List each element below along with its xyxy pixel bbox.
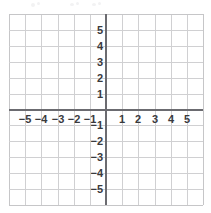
x-axis-tick-label: −4 bbox=[35, 114, 48, 125]
x-axis-tick-label: 2 bbox=[135, 114, 141, 125]
x-axis-tick-label: −3 bbox=[52, 114, 65, 125]
y-axis-tick-label: −1 bbox=[90, 120, 103, 131]
scan-speckle bbox=[37, 2, 40, 5]
y-axis-tick-label: 1 bbox=[97, 89, 103, 100]
x-axis-tick-label: −5 bbox=[19, 114, 32, 125]
y-axis-tick-label: −4 bbox=[90, 168, 103, 179]
scan-speckle bbox=[76, 2, 79, 5]
x-axis-tick-label: 4 bbox=[168, 114, 174, 125]
x-axis-tick-label: 3 bbox=[152, 114, 158, 125]
scan-speckle bbox=[92, 3, 96, 6]
x-axis-tick-label: −2 bbox=[68, 114, 81, 125]
plot-area: −5−4−3−2−11234554321−1−2−3−4−5 bbox=[9, 14, 203, 205]
x-axis-tick-label: 1 bbox=[119, 114, 125, 125]
y-axis-tick-label: 5 bbox=[97, 25, 103, 36]
y-axis-tick-label: −3 bbox=[90, 152, 103, 163]
x-axis-tick-label: 5 bbox=[184, 114, 190, 125]
coordinate-plane-figure: −5−4−3−2−11234554321−1−2−3−4−5 bbox=[0, 0, 211, 213]
y-axis-tick-label: 3 bbox=[97, 57, 103, 68]
grid-line-vertical bbox=[203, 14, 204, 205]
grid-line-horizontal bbox=[9, 205, 203, 206]
x-axis bbox=[9, 109, 203, 111]
scan-speckle bbox=[31, 3, 35, 7]
y-axis-tick-label: 4 bbox=[97, 41, 103, 52]
y-axis-tick-label: −2 bbox=[90, 136, 103, 147]
scan-speckle bbox=[98, 2, 101, 5]
y-axis-tick-label: 2 bbox=[97, 73, 103, 84]
y-axis-tick-label: −5 bbox=[90, 184, 103, 195]
scan-speckle bbox=[70, 3, 74, 6]
